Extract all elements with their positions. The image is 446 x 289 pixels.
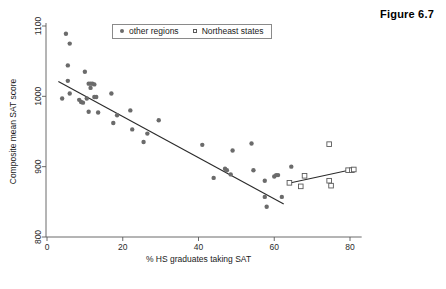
data-point [83,70,87,74]
data-point [68,41,72,45]
data-point [64,32,68,36]
axes-group [42,23,362,241]
data-points-group [60,32,356,209]
x-tick-label-40: 40 [194,242,204,252]
data-point [130,127,134,131]
data-point [141,140,145,144]
data-point [276,173,280,177]
plot-svg: 80090010001100020406080% HS graduates ta… [0,0,446,289]
data-point [68,91,72,95]
data-point [109,91,113,95]
x-axis-title: % HS graduates taking SAT [146,254,251,264]
open-square-icon [193,29,197,33]
x-tick-label-60: 60 [270,242,280,252]
data-point [88,86,92,90]
legend-entry-northeast-states: Northeast states [193,27,264,36]
data-point [81,100,85,104]
data-point [111,121,115,125]
data-point [66,63,70,67]
data-point [249,141,253,145]
data-point [145,131,149,135]
y-tick-label-800: 800 [33,230,43,244]
legend-entry-other-regions: other regions [120,27,179,36]
data-point [94,95,98,99]
x-tick-label-80: 80 [345,242,355,252]
figure-root: Figure 6.7 80090010001100020406080% HS g… [0,0,446,289]
data-point [329,183,334,188]
data-point [280,195,284,199]
data-point [351,167,356,172]
data-point [96,110,100,114]
data-point [60,96,64,100]
axis-labels-group: 80090010001100020406080% HS graduates ta… [8,17,355,264]
y-axis-title: Composite mean SAT score [8,78,18,184]
data-point [264,205,268,209]
data-point [287,181,292,186]
data-point [200,143,204,147]
data-point [263,179,267,183]
data-point [289,164,293,168]
legend-label-other-regions: other regions [129,27,179,36]
data-point [115,113,119,117]
scatter-plot: 80090010001100020406080% HS graduates ta… [0,0,446,289]
data-point [85,96,89,100]
data-point [327,178,332,183]
x-tick-label-20: 20 [118,242,128,252]
x-tick-label-0: 0 [45,242,50,252]
data-point [228,172,232,176]
regression-lines-group [58,82,355,204]
data-point [92,82,96,86]
data-point [157,118,161,122]
data-point [66,79,70,83]
data-point [86,110,90,114]
legend-label-northeast-states: Northeast states [202,27,264,36]
data-point [327,142,332,147]
data-point [225,168,229,172]
data-point [263,195,267,199]
data-point [302,174,307,179]
data-point [251,168,255,172]
data-point [230,148,234,152]
y-tick-label-1100: 1100 [33,17,43,36]
data-point [298,184,303,189]
data-point [211,176,215,180]
y-tick-label-900: 900 [33,159,43,173]
filled-circle-icon [120,29,124,33]
data-point [128,108,132,112]
legend: other regions Northeast states [112,24,272,39]
y-tick-label-1000: 1000 [33,87,43,106]
